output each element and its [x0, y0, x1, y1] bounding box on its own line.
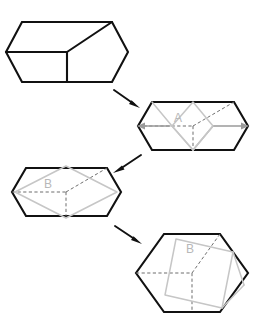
panel-4-hexagon-tilted-square-b: B	[136, 234, 248, 312]
arrow-panel3-to-panel4	[115, 226, 142, 244]
figure-root: A B	[0, 0, 254, 335]
panel-2-hexagon-rhombus-a: A	[137, 102, 249, 150]
arrow-2-shaft	[120, 155, 141, 169]
panel-3-hexagon-square-b: B	[12, 166, 121, 218]
diagram-canvas: A B	[0, 0, 254, 335]
panel-4-label-b: B	[186, 242, 194, 256]
arrow-panel1-to-panel2	[114, 90, 140, 108]
arrow-panel2-to-panel3	[113, 155, 141, 173]
panel-1-cube-isometric	[6, 22, 128, 82]
panel-2-label-a: A	[174, 111, 182, 125]
panel-3-label-b: B	[44, 177, 52, 191]
